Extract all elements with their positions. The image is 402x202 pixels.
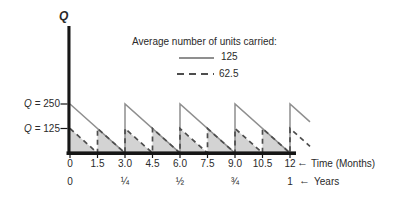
x-axis	[67, 151, 297, 155]
legend-solid-label: 125	[221, 51, 238, 62]
legend-dashed-label: 62.5	[219, 68, 238, 79]
y-tick	[61, 128, 68, 129]
y-ref-label-250: Q= 250	[16, 98, 60, 109]
x-axis-title-months: Time (Months)	[311, 158, 375, 169]
y-axis	[67, 26, 70, 155]
x-tick-label-months: 1.5	[91, 158, 105, 169]
x-tick-label-months: 4.5	[146, 158, 160, 169]
x-tick-label-months: 9.0	[228, 158, 242, 169]
x-tick-label-months: 7.5	[201, 158, 215, 169]
x-tick-label-years: 0	[67, 176, 73, 187]
x-tick-label-months: 3.0	[118, 158, 132, 169]
x-tick-label-months: 6.0	[173, 158, 187, 169]
y-ref-value-125: = 125	[35, 123, 60, 134]
legend-title: Average number of units carried:	[132, 36, 277, 47]
x-tick-label-years: 1	[287, 176, 293, 187]
legend-dashed-line-swatch	[177, 73, 214, 75]
legend-solid-line-swatch	[179, 57, 214, 59]
x-tick-label-years: ¾	[231, 176, 239, 187]
q-symbol: Q	[24, 98, 35, 109]
y-ref-value-250: = 250	[35, 98, 60, 109]
x-axis-title-years: Years	[314, 176, 339, 187]
chart-canvas	[0, 0, 402, 202]
y-axis-title: Q	[59, 9, 68, 23]
y-tick	[61, 103, 68, 104]
x-tick-label-months: 12	[284, 158, 295, 169]
q-symbol: Q	[24, 123, 35, 134]
x-tick-label-months: 0	[67, 158, 73, 169]
y-ref-label-125: Q= 125	[16, 123, 60, 134]
x-tick-label-years: ½	[176, 176, 184, 187]
left-arrow-icon: ←	[297, 157, 308, 168]
x-tick-label-years: ¼	[121, 176, 129, 187]
left-arrow-icon: ←	[299, 175, 310, 186]
inventory-sawtooth-figure: Q Q= 250 Q= 125 Average number of units …	[0, 0, 402, 202]
x-tick-label-months: 10.5	[253, 158, 272, 169]
